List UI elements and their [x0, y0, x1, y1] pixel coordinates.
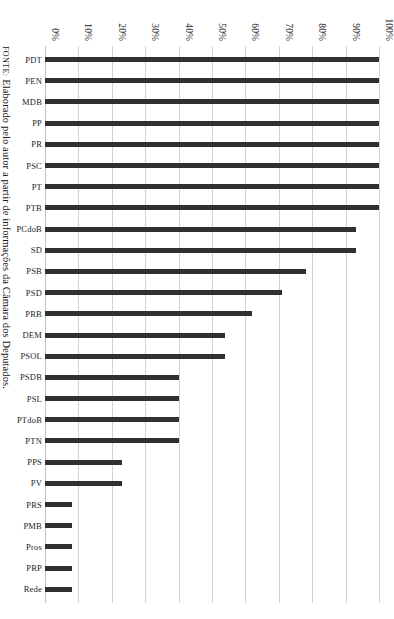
bar-slot — [45, 261, 379, 282]
bar — [45, 375, 179, 380]
bar — [45, 566, 72, 571]
x-label-slot: PRB — [16, 303, 42, 324]
bar-slot — [45, 536, 379, 557]
bar-slot — [45, 197, 379, 218]
x-label-slot: PSB — [16, 261, 42, 282]
caption-body-text: Elaborado pelo autor a partir de informa… — [1, 79, 12, 389]
bar — [45, 290, 282, 295]
bar — [45, 460, 122, 465]
bar — [45, 57, 379, 62]
x-axis-category-label: PTB — [26, 203, 42, 213]
x-axis-category-label: PSOL — [20, 351, 42, 361]
x-label-slot: PCdoB — [16, 219, 42, 240]
y-axis-tick-label: 80% — [317, 23, 327, 41]
bar-slot — [45, 409, 379, 430]
x-axis-category-label: PMB — [23, 521, 42, 531]
bar-slot — [45, 494, 379, 515]
y-axis-tick-label: 40% — [184, 23, 194, 41]
bar-slot — [45, 113, 379, 134]
x-axis-category-label: PRB — [25, 309, 42, 319]
bar — [45, 78, 379, 83]
bar-slot — [45, 303, 379, 324]
x-axis-category-label: PSL — [27, 394, 42, 404]
y-axis-tick-label: 70% — [284, 23, 294, 41]
bar — [45, 184, 379, 189]
x-label-slot: PSDB — [16, 367, 42, 388]
caption-fonte-label: FONTE: — [1, 46, 10, 76]
x-label-slot: PR — [16, 134, 42, 155]
x-axis-category-label: PT — [32, 182, 42, 192]
x-axis-category-label: Pros — [26, 542, 42, 552]
bar — [45, 142, 379, 147]
bar — [45, 396, 179, 401]
x-axis-category-label: DEM — [23, 330, 43, 340]
x-axis-category-label: PSD — [26, 288, 42, 298]
bar — [45, 523, 72, 528]
plot-area: 0%10%20%30%40%50%60%70%80%90%100% — [45, 46, 379, 603]
bar — [45, 333, 225, 338]
bar-slot — [45, 515, 379, 536]
x-label-slot: MDB — [16, 91, 42, 112]
bar-slot — [45, 240, 379, 261]
x-label-slot: PSL — [16, 388, 42, 409]
x-label-slot: Pros — [16, 536, 42, 557]
x-label-slot: PTB — [16, 197, 42, 218]
x-axis-category-label: PTdoB — [17, 415, 42, 425]
y-axis-tick-label: 90% — [351, 23, 361, 41]
bar — [45, 121, 379, 126]
bar — [45, 227, 356, 232]
y-axis-tick-label: 20% — [117, 23, 127, 41]
x-axis-category-label: PR — [31, 139, 42, 149]
bar-slot — [45, 176, 379, 197]
x-label-slot: PRP — [16, 558, 42, 579]
bar — [45, 481, 122, 486]
x-axis-category-label: PTN — [25, 436, 42, 446]
figure-source-caption: FONTE: Elaborado pelo autor a partir de … — [1, 46, 12, 611]
y-axis-tick-label: 100% — [384, 18, 394, 41]
bar-slot — [45, 430, 379, 451]
bar-slot — [45, 346, 379, 367]
gridline — [379, 46, 380, 603]
x-axis-category-label: Rede — [24, 584, 42, 594]
y-axis-tick-label: 60% — [250, 23, 260, 41]
y-axis-tick-label: 10% — [83, 23, 93, 41]
x-axis-category-label: PRP — [26, 563, 42, 573]
bar — [45, 99, 379, 104]
bar — [45, 269, 306, 274]
x-label-slot: PTdoB — [16, 409, 42, 430]
bar-slot — [45, 579, 379, 600]
x-label-slot: Rede — [16, 579, 42, 600]
x-label-slot: PP — [16, 113, 42, 134]
x-label-slot: PV — [16, 473, 42, 494]
x-label-slot: PEN — [16, 70, 42, 91]
bar-slot — [45, 155, 379, 176]
bar-slot — [45, 282, 379, 303]
y-axis-tick-label: 0% — [50, 28, 60, 41]
bar-slot — [45, 324, 379, 345]
bar — [45, 248, 356, 253]
y-axis-tick-label: 50% — [217, 23, 227, 41]
bar-slot — [45, 558, 379, 579]
bar-slot — [45, 388, 379, 409]
bar-slot — [45, 49, 379, 70]
x-axis-category-label: PSB — [26, 266, 42, 276]
x-axis-category-label: PCdoB — [16, 224, 42, 234]
bar — [45, 354, 225, 359]
x-label-slot: PSD — [16, 282, 42, 303]
x-label-slot: DEM — [16, 324, 42, 345]
x-axis-category-label: PSDB — [20, 372, 42, 382]
bar-slot — [45, 367, 379, 388]
y-axis-tick-label: 30% — [150, 23, 160, 41]
x-axis-category-label: PP — [32, 118, 42, 128]
bar-slot — [45, 473, 379, 494]
x-axis-category-label: PDT — [25, 55, 42, 65]
bar-slot — [45, 134, 379, 155]
bar-slot — [45, 219, 379, 240]
bar — [45, 311, 252, 316]
x-axis-category-label: SD — [31, 245, 42, 255]
x-label-slot: SD — [16, 240, 42, 261]
x-label-slot: PT — [16, 176, 42, 197]
x-axis-category-labels: PDTPENMDBPPPRPSCPTPTBPCdoBSDPSBPSDPRBDEM… — [16, 46, 45, 603]
bar — [45, 544, 72, 549]
